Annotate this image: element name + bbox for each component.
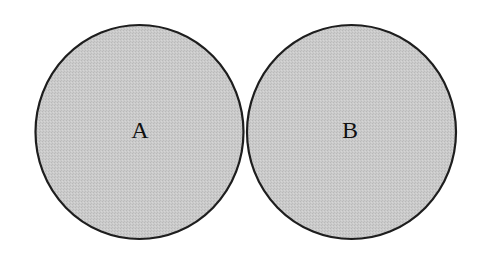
two-circles-diagram: A B [0,0,477,261]
circle-a-label: A [131,117,149,143]
circle-a: A [36,25,244,239]
circle-b-label: B [342,117,358,143]
circle-b: B [247,25,456,239]
